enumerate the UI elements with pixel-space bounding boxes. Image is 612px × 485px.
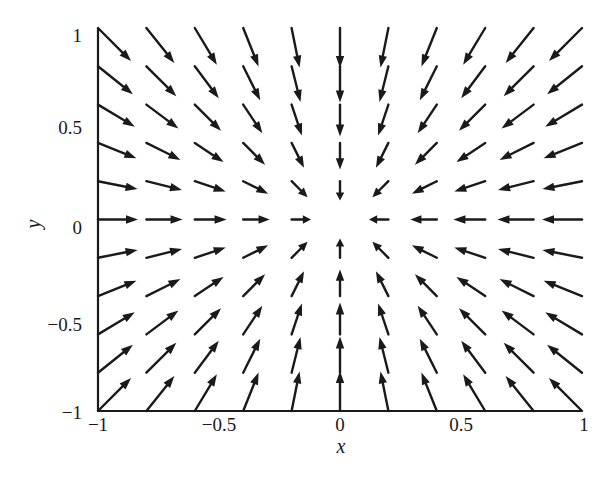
arrow-head-icon xyxy=(379,371,387,384)
arrow-head-icon xyxy=(207,52,217,64)
arrow-head-icon xyxy=(336,158,344,169)
arrow-head-icon xyxy=(211,152,223,162)
arrow-shaft xyxy=(554,252,582,258)
arrow-head-icon xyxy=(453,215,465,223)
arrow-shaft xyxy=(195,66,212,88)
arrow-shaft xyxy=(195,181,214,187)
x-tick-labels: −1 −0.5 0 0.5 1 xyxy=(88,414,589,435)
arrow-shaft xyxy=(382,105,388,124)
arrow-head-icon xyxy=(454,184,467,192)
arrow-head-icon xyxy=(500,151,513,160)
arrow-head-icon xyxy=(410,215,421,223)
arrow-shaft xyxy=(381,282,388,296)
arrow-head-icon xyxy=(500,279,513,288)
arrow-head-icon xyxy=(169,183,182,191)
x-axis-label: x xyxy=(336,435,346,457)
arrow-shaft xyxy=(98,252,126,258)
arrow-shaft xyxy=(146,181,170,187)
arrow-head-icon xyxy=(336,270,344,281)
x-tick-label: 0.5 xyxy=(449,414,473,435)
arrow-head-icon xyxy=(294,123,302,136)
arrow-shaft xyxy=(146,284,169,296)
arrow-shaft xyxy=(466,284,485,296)
arrow-head-icon xyxy=(336,238,344,246)
arrow-shaft xyxy=(512,66,533,87)
arrow-head-icon xyxy=(542,215,554,223)
arrow-shaft xyxy=(146,385,166,411)
arrow-shaft xyxy=(555,143,582,154)
arrow-shaft xyxy=(146,143,169,155)
arrow-head-icon xyxy=(379,55,387,68)
arrow-shaft xyxy=(195,350,212,372)
arrow-head-icon xyxy=(294,304,302,317)
arrow-head-icon xyxy=(251,88,260,101)
vector-field-plot: −1 −0.5 0 0.5 1 −1 −0.5 0 0.5 1 x y xyxy=(0,0,612,485)
arrow-head-icon xyxy=(122,117,134,127)
arrow-head-icon xyxy=(456,277,468,287)
arrow-shaft xyxy=(468,66,485,88)
arrow-shaft xyxy=(424,105,436,124)
arrow-head-icon xyxy=(169,248,182,256)
arrow-shaft xyxy=(146,252,170,258)
arrow-head-icon xyxy=(336,337,344,349)
arrow-head-icon xyxy=(168,279,181,288)
arrow-head-icon xyxy=(215,215,227,223)
arrow-head-icon xyxy=(463,52,473,64)
arrow-head-icon xyxy=(171,215,183,223)
arrow-head-icon xyxy=(378,123,386,136)
arrow-shaft xyxy=(98,386,123,411)
arrow-shaft xyxy=(426,384,437,411)
arrow-shaft xyxy=(292,315,298,334)
arrow-head-icon xyxy=(376,155,385,167)
arrow-shaft xyxy=(243,384,254,411)
arrow-head-icon xyxy=(421,373,429,386)
arrow-shaft xyxy=(513,28,533,54)
arrow-head-icon xyxy=(498,183,511,191)
arrow-shaft xyxy=(383,383,389,411)
arrow-shaft xyxy=(195,105,213,123)
arrow-shaft xyxy=(466,143,485,155)
arrow-shaft xyxy=(383,28,389,56)
arrow-shaft xyxy=(467,105,485,123)
arrow-head-icon xyxy=(295,271,304,283)
arrow-shaft xyxy=(556,66,582,86)
arrow-shaft xyxy=(195,251,214,257)
arrow-head-icon xyxy=(418,306,428,318)
arrow-shaft xyxy=(243,349,255,372)
arrow-head-icon xyxy=(456,152,468,162)
arrow-head-icon xyxy=(336,90,344,102)
arrow-shaft xyxy=(292,105,298,124)
arrow-shaft xyxy=(98,319,124,335)
arrow-shaft xyxy=(146,28,166,54)
arrow-head-icon xyxy=(378,304,386,317)
arrow-shaft xyxy=(243,143,256,156)
arrow-shaft xyxy=(195,28,211,54)
arrow-shaft xyxy=(195,385,211,411)
arrow-head-icon xyxy=(256,185,268,194)
arrow-head-icon xyxy=(412,245,424,254)
y-tick-label: 0.5 xyxy=(58,117,82,138)
arrow-shaft xyxy=(382,315,388,334)
arrow-shaft xyxy=(98,352,124,372)
arrow-shaft xyxy=(243,283,256,296)
arrow-head-icon xyxy=(544,150,557,158)
arrow-shaft xyxy=(510,284,533,296)
arrow-shaft xyxy=(382,349,388,373)
arrow-head-icon xyxy=(250,54,258,67)
arrow-head-icon xyxy=(252,306,262,318)
arrow-head-icon xyxy=(126,215,138,223)
arrow-head-icon xyxy=(213,247,226,255)
arrow-shaft xyxy=(146,66,167,87)
y-tick-labels: −1 −0.5 0 0.5 1 xyxy=(48,25,82,423)
arrow-shaft xyxy=(292,249,301,258)
arrow-shaft xyxy=(146,351,167,372)
arrow-shaft xyxy=(510,143,533,155)
y-tick-label: −1 xyxy=(62,402,82,423)
arrow-head-icon xyxy=(418,121,428,133)
arrow-shaft xyxy=(243,316,255,335)
arrow-shaft xyxy=(243,181,257,188)
arrow-shaft xyxy=(424,316,436,335)
arrow-shaft xyxy=(466,251,485,257)
arrow-shaft xyxy=(469,28,485,54)
y-tick-label: 1 xyxy=(73,25,83,46)
